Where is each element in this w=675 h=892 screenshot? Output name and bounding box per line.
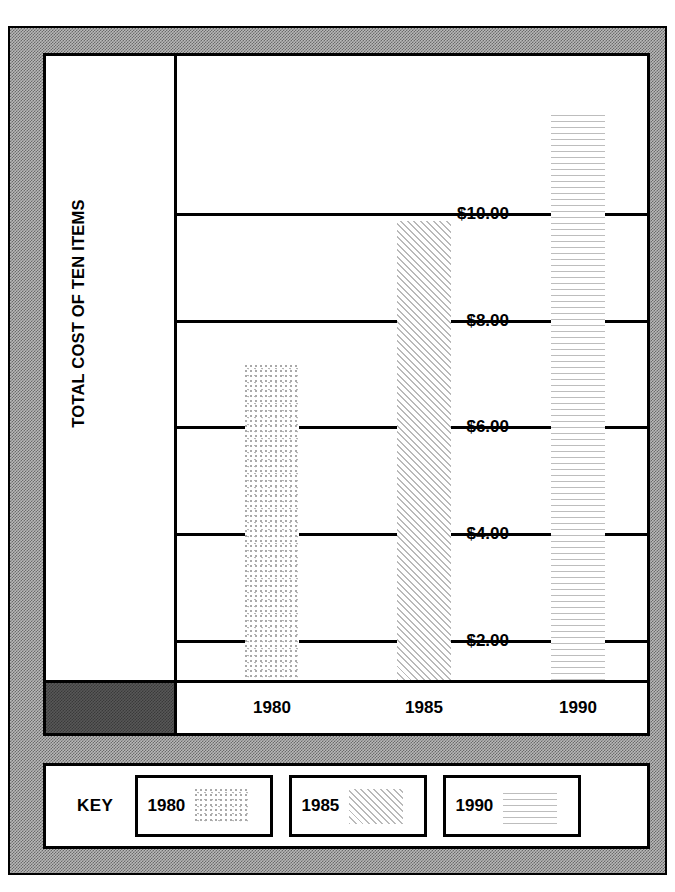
legend-label-1985: 1985 [301,796,339,816]
legend-item-1980: 1980 [135,775,273,837]
bar-1980 [245,365,299,680]
y-axis-title: TOTAL COST OF TEN ITEMS [69,154,88,474]
figure-frame: TOTAL COST OF TEN ITEMS $10.00 $8.00 $6.… [8,26,667,875]
y-axis-label-column: TOTAL COST OF TEN ITEMS [46,56,177,680]
x-tick-label-1985: 1985 [364,683,484,733]
x-axis-row: 1980 1985 1990 [46,680,647,733]
legend-label-1990: 1990 [455,796,493,816]
bar-1990 [551,112,605,680]
legend: KEY 1980 1985 1990 [43,763,650,849]
legend-swatch-1985 [349,789,403,824]
x-tick-label-1990: 1990 [518,683,638,733]
legend-label-1980: 1980 [147,796,185,816]
bar-1985 [397,221,451,680]
legend-item-1985: 1985 [289,775,427,837]
chart-panel: TOTAL COST OF TEN ITEMS $10.00 $8.00 $6.… [43,53,650,736]
legend-swatch-1990 [503,789,557,824]
legend-title: KEY [77,796,113,816]
plot-area [177,56,647,680]
legend-swatch-1980 [195,789,249,824]
x-axis-corner-block [46,683,177,733]
x-tick-label-1980: 1980 [212,683,332,733]
legend-item-1990: 1990 [443,775,581,837]
